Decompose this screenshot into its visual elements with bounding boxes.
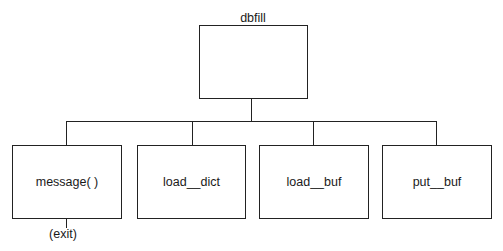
connector-bus xyxy=(66,121,437,122)
child-box-load-buf: load__buf xyxy=(259,145,369,219)
root-label: dbfill xyxy=(203,11,303,25)
connector-drop-1 xyxy=(66,121,67,145)
exit-label: (exit) xyxy=(33,227,93,241)
child-box-load-dict: load__dict xyxy=(137,145,246,219)
child-label: load__dict xyxy=(163,175,220,189)
root-box-dbfill xyxy=(199,25,308,99)
child-label: load__buf xyxy=(287,175,342,189)
connector-root-stem xyxy=(251,98,252,121)
child-label: put__buf xyxy=(413,175,462,189)
child-label: message( ) xyxy=(36,175,99,189)
connector-drop-4 xyxy=(436,121,437,145)
child-box-message: message( ) xyxy=(12,145,122,219)
connector-drop-3 xyxy=(313,121,314,145)
connector-drop-2 xyxy=(192,121,193,145)
child-box-put-buf: put__buf xyxy=(382,145,492,219)
